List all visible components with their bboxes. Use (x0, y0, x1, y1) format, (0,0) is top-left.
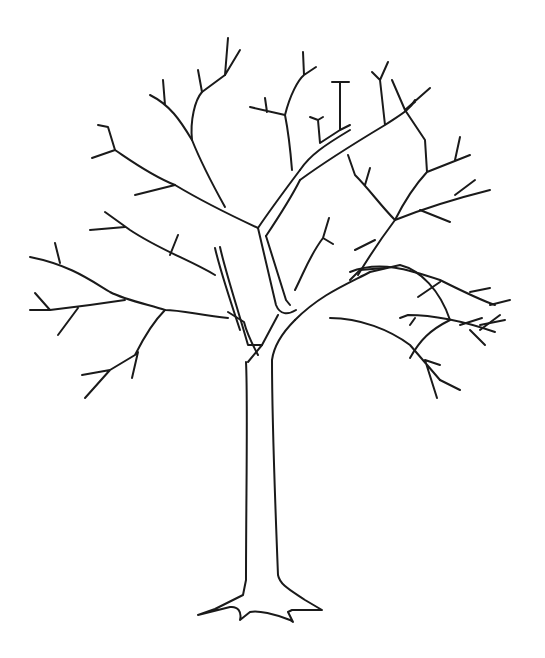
trunk (198, 312, 322, 622)
tree-illustration: Black line drawing of a bare deciduous t… (0, 0, 545, 658)
left-branches (30, 38, 258, 398)
tree-drawing (0, 0, 545, 658)
right-branches (250, 52, 510, 398)
